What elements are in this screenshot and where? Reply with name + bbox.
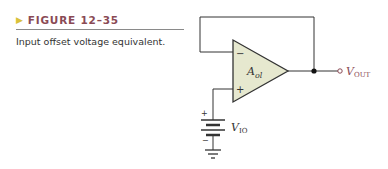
output-junction-dot	[311, 68, 316, 73]
ground-icon	[205, 150, 221, 158]
noninverting-wire	[213, 89, 233, 120]
battery-plus-sign: +	[201, 109, 208, 118]
output-label: VOUT	[346, 65, 371, 79]
battery-minus-sign: −	[202, 136, 209, 145]
inverting-sign: −	[236, 48, 244, 59]
output-terminal	[338, 69, 342, 73]
battery-icon	[201, 120, 225, 135]
circuit-diagram: − + Aol VOUT + − VIO	[0, 0, 388, 169]
noninverting-sign: +	[236, 84, 244, 95]
source-label: VIO	[231, 121, 248, 135]
